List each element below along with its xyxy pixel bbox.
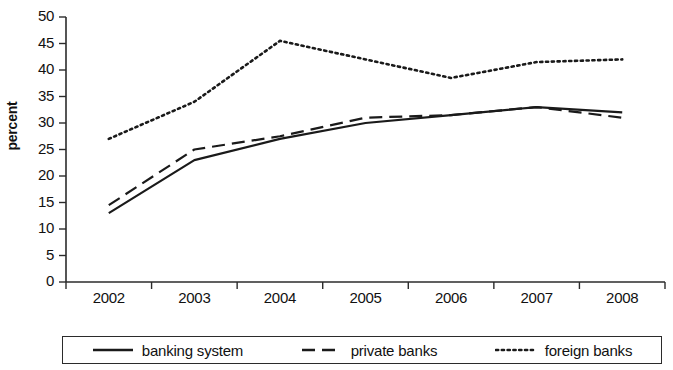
legend-item-label: banking system [142,342,243,359]
axes [59,17,665,289]
x-tick-label: 2006 [421,289,481,306]
x-tick-label: 2005 [336,289,396,306]
y-axis-title: percent [4,86,20,166]
x-tick-label: 2007 [507,289,567,306]
legend-swatch-dashed-icon [301,344,343,356]
y-tick-label: 40 [20,60,54,77]
y-tick-label: 20 [20,166,54,183]
plot-area [0,0,673,330]
legend-item-label: foreign banks [545,342,632,359]
legend-item-label: private banks [351,342,438,359]
y-tick-label: 10 [20,219,54,236]
y-tick-label: 30 [20,113,54,130]
series-line [109,107,622,213]
y-tick-label: 0 [20,272,54,289]
y-tick-label: 15 [20,193,54,210]
legend-swatch-dotted-icon [495,344,537,356]
data-series [109,41,622,213]
x-tick-label: 2008 [592,289,652,306]
series-line [109,107,622,205]
line-chart: percent 05101520253035404550 20022003200… [0,0,673,370]
chart-legend: banking systemprivate banksforeign banks [62,336,662,364]
y-tick-label: 25 [20,140,54,157]
y-tick-label: 45 [20,34,54,51]
x-tick-label: 2003 [164,289,224,306]
y-tick-label: 5 [20,246,54,263]
legend-item: foreign banks [495,342,632,359]
legend-item: banking system [92,342,243,359]
x-tick-label: 2004 [250,289,310,306]
legend-swatch-solid-icon [92,344,134,356]
series-line [109,41,622,139]
x-tick-label: 2002 [79,289,139,306]
legend-item: private banks [301,342,438,359]
y-tick-label: 35 [20,87,54,104]
y-tick-label: 50 [20,7,54,24]
